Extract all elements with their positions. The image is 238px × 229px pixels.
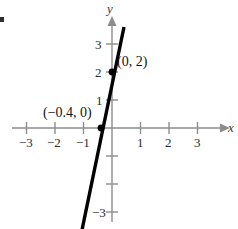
y-tick-label-pos3: 3: [95, 38, 102, 51]
x-tick-label-pos3: 3: [194, 136, 201, 149]
point-marker-x-intercept: [98, 125, 105, 132]
x-tick-label-neg3: −3: [19, 136, 33, 149]
x-tick-label-pos2: 2: [165, 136, 172, 149]
y-tick-label-pos2: 2: [95, 66, 102, 79]
annotation-x-intercept: (−0.4, 0): [43, 106, 92, 120]
point-marker-y-intercept: [109, 69, 116, 76]
y-axis-label: y: [107, 2, 113, 15]
y-tick-label-pos1: 1: [96, 94, 103, 107]
annotation-y-intercept: (0, 2): [117, 55, 147, 69]
x-axis-label: x: [228, 121, 234, 134]
graph-figure: y x −3 −2 −1 1 2 3 3 2 1 −3 (0, 2) (−0.4…: [0, 0, 238, 229]
x-tick-label-neg1: −1: [76, 136, 90, 149]
x-tick-label-neg2: −2: [47, 136, 61, 149]
y-tick-label-neg3: −3: [92, 206, 106, 219]
y-axis-arrow-icon: [108, 16, 117, 26]
coordinate-plane: [0, 0, 238, 229]
x-tick-label-pos1: 1: [137, 136, 144, 149]
